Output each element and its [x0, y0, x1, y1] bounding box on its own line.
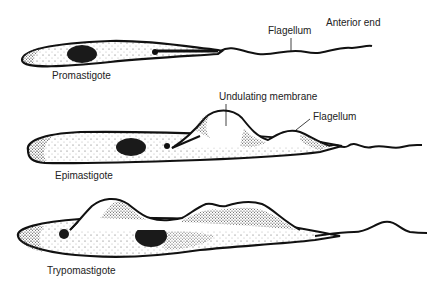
epimastigote-flagellum [330, 144, 422, 148]
epimastigote-flagellum-label: Flagellum [313, 111, 356, 122]
epimastigote-membrane-label: Undulating membrane [219, 91, 318, 102]
epimastigote-flagellum-pointer [296, 119, 310, 130]
diagram-canvas: Flagellum Anterior end Promastigote Undu… [0, 0, 443, 284]
trypomastigote-label: Trypomastigote [47, 265, 116, 276]
epimastigote-nucleus [116, 138, 146, 156]
promastigote-flagellum-label: Flagellum [268, 25, 311, 36]
promastigote-flagellum [220, 46, 372, 55]
promastigote-anterior-end-label: Anterior end [326, 17, 380, 28]
promastigote-label: Promastigote [52, 70, 111, 81]
trypomastigote-kinetoplast [59, 229, 69, 239]
trypomastigote: Trypomastigote [18, 199, 427, 276]
promastigote: Flagellum Anterior end Promastigote [22, 17, 380, 81]
trypomastigote-flagellum [315, 222, 427, 236]
promastigote-nucleus [67, 45, 97, 63]
promastigote-body [22, 41, 222, 66]
epimastigote: Undulating membrane Flagellum Epimastigo… [28, 91, 422, 181]
epimastigote-label: Epimastigote [55, 170, 113, 181]
epimastigote-kinetoplast [164, 143, 170, 149]
